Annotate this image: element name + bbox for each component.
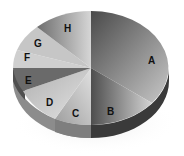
label-D: D (46, 97, 53, 108)
label-H: H (64, 23, 71, 34)
pie-chart-3d: A B C D E F G H (0, 0, 184, 156)
label-C: C (72, 108, 79, 119)
label-F: F (24, 52, 30, 63)
label-E: E (25, 75, 32, 86)
label-A: A (148, 55, 155, 66)
label-B: B (107, 106, 114, 117)
label-G: G (34, 38, 42, 49)
